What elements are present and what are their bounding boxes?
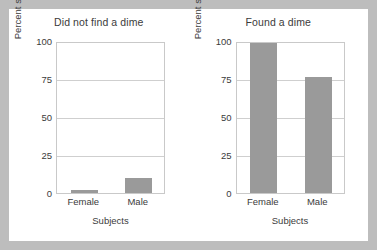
chart-panel-left: Did not find a dime Percent stopping to …	[9, 9, 189, 241]
y-tick-labels-right: 0255075100	[189, 42, 236, 194]
bars-layer-right	[237, 43, 344, 193]
y-tick-label: 50	[194, 113, 236, 123]
x-axis-label-left: Subjects	[56, 215, 165, 226]
bar	[305, 77, 332, 193]
y-tick-label: 50	[14, 113, 56, 123]
plot-area-left	[56, 42, 165, 194]
x-tick-labels-right: FemaleMale	[236, 196, 345, 210]
x-axis-label-right: Subjects	[236, 215, 345, 226]
y-tick-labels-left: 0255075100	[9, 42, 56, 194]
bar	[125, 178, 152, 193]
x-tick-label: Male	[307, 196, 328, 208]
chart-title-right: Found a dime	[189, 16, 369, 28]
bars-layer-left	[57, 43, 164, 193]
y-tick-label: 100	[194, 37, 236, 47]
y-tick-label: 100	[14, 37, 56, 47]
chart-panel-right: Found a dime Percent stopping to help 02…	[189, 9, 369, 241]
bar	[250, 42, 277, 193]
y-tick-label: 75	[194, 75, 236, 85]
chart-title-left: Did not find a dime	[9, 16, 189, 28]
x-tick-label: Male	[127, 196, 148, 208]
y-tick-label: 0	[14, 189, 56, 199]
y-tick-label: 75	[14, 75, 56, 85]
plot-area-right	[236, 42, 345, 194]
y-tick-label: 25	[14, 151, 56, 161]
x-tick-label: Female	[67, 196, 99, 208]
x-tick-label: Female	[247, 196, 279, 208]
x-tick-labels-left: FemaleMale	[56, 196, 165, 210]
charts-row: Did not find a dime Percent stopping to …	[9, 9, 368, 241]
y-tick-label: 25	[194, 151, 236, 161]
figure-frame: Did not find a dime Percent stopping to …	[0, 0, 377, 250]
y-tick-label: 0	[194, 189, 236, 199]
figure-panel: Did not find a dime Percent stopping to …	[9, 9, 368, 241]
bar	[71, 190, 98, 193]
